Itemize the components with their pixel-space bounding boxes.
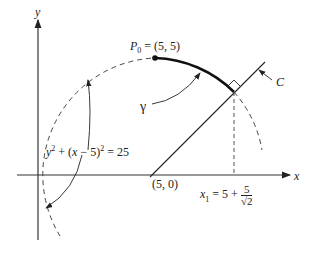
eq-pointer-down: [46, 155, 82, 208]
gamma-pointer: [152, 73, 200, 104]
line-c: [150, 62, 265, 177]
circle-equation: y2 + (x − 5)2 = 25: [46, 145, 129, 158]
p0-dot: [152, 55, 158, 61]
y-axis-label: y: [35, 6, 40, 18]
c-pointer: [259, 70, 272, 80]
gamma-curve: [155, 58, 234, 92]
p0-label: P0 = (5, 5): [130, 40, 180, 55]
point-5-0-label: (5, 0): [152, 178, 178, 190]
line-c-label: C: [276, 76, 284, 88]
x-axis-label: x: [294, 170, 299, 182]
right-angle-mark: [228, 80, 240, 86]
eq-pointer-up: [88, 80, 90, 150]
gamma-label: γ: [140, 100, 146, 114]
x1-label: x1 = 5 + 5√2: [200, 184, 252, 207]
